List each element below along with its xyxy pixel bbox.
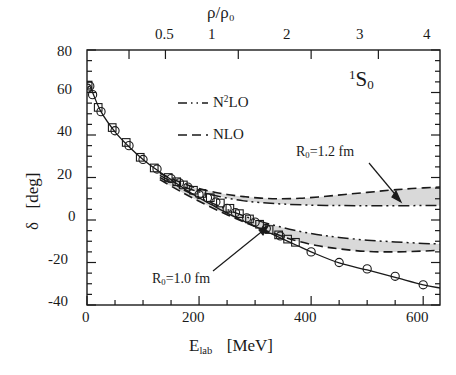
annot-r0-1p2-pre: R — [296, 144, 305, 159]
top-axis-title: ρ/ρ₀ — [207, 4, 235, 21]
x-axis-unit: [MeV] — [227, 336, 273, 355]
top-tick-label-1: 1 — [208, 27, 216, 42]
x-tick-label-200: 200 — [182, 310, 205, 325]
x-tick-label-0: 0 — [82, 310, 90, 325]
uncertainty-bands — [160, 173, 440, 252]
annotation-r0-1p0: R0=1.0 fm — [152, 272, 210, 287]
y-tick-label-40: 40 — [57, 124, 72, 139]
x-axis-symbol: E — [189, 336, 199, 355]
curves — [88, 86, 440, 288]
y-axis-title: δ [deg] — [24, 173, 41, 230]
state-letter: S — [356, 67, 368, 91]
data-markers — [83, 81, 427, 289]
phase-shift-figure: ρ/ρ₀ 0.5 1 2 3 4 80 60 40 20 0 -20 -40 δ… — [0, 0, 456, 375]
y-axis-symbol: δ — [23, 222, 42, 230]
annot-r0-1p0-pre: R — [152, 271, 161, 286]
x-tick-label-400: 400 — [294, 310, 317, 325]
y-tick-label-60: 60 — [57, 82, 72, 97]
legend-line-samples — [178, 103, 208, 135]
state-label: 1S0 — [349, 68, 374, 91]
x-tick-label-600: 600 — [406, 310, 429, 325]
y-tick-label-m40: -40 — [48, 294, 68, 309]
top-tick-label-3: 3 — [356, 27, 364, 42]
top-tick-label-0: 0.5 — [155, 27, 174, 42]
annotation-r0-1p2: R0=1.2 fm — [296, 145, 354, 160]
y-tick-label-20: 20 — [57, 167, 72, 182]
y-tick-label-0: 0 — [68, 209, 76, 224]
arrow-line-r0-1p0 — [213, 229, 265, 271]
x-axis-subscript: lab — [199, 345, 212, 356]
state-total-j: 0 — [367, 77, 374, 92]
legend-n2lo-pre: N — [213, 94, 224, 110]
top-tick-label-4: 4 — [423, 27, 431, 42]
legend-n2lo-post: LO — [229, 94, 249, 110]
y-tick-label-80: 80 — [57, 44, 72, 59]
annot-r0-1p0-post: =1.0 fm — [166, 271, 210, 286]
legend-label-nlo: NLO — [213, 127, 244, 142]
annot-r0-1p2-post: =1.2 fm — [310, 144, 354, 159]
axis-ticks — [87, 50, 440, 305]
plot-frame — [87, 50, 440, 305]
data-point — [125, 142, 133, 150]
data-point — [111, 127, 119, 135]
legend-label-n2lo: N2LO — [213, 95, 249, 110]
curve-pwa-solid — [88, 86, 440, 288]
top-tick-label-2: 2 — [283, 27, 291, 42]
y-tick-label-m20: -20 — [48, 252, 68, 267]
x-axis-title: Elab [MeV] — [189, 337, 273, 356]
y-axis-unit: [deg] — [23, 173, 42, 209]
